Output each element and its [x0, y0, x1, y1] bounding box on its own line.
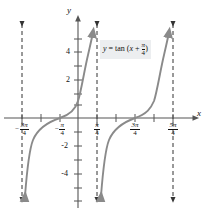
equation-lhs: y	[103, 44, 107, 53]
y-axis	[74, 18, 82, 208]
frac-denominator: 4	[94, 130, 100, 137]
fraction: 3π4	[130, 122, 139, 138]
x-tick-label-neg-pi-over-4: −π4	[48, 122, 72, 138]
x-axis	[4, 114, 196, 122]
x-tick-label-5pi-over-4: 5π4	[163, 122, 183, 138]
equation-close-paren: )	[145, 44, 148, 53]
fraction: 3π4	[20, 122, 29, 138]
x-tick-label-pi-over-4: π4	[89, 122, 105, 138]
frac-denominator: 4	[168, 130, 177, 137]
x-tick-label-3pi-over-4: 3π4	[125, 122, 145, 138]
frac-denominator: 4	[20, 130, 29, 137]
equation-plus: +	[135, 44, 140, 53]
y-tick-label-neg-4: -4	[54, 169, 68, 178]
equation-equals: =	[109, 44, 114, 53]
y-tick-label-4: 4	[56, 47, 70, 56]
y-axis-label: y	[67, 5, 71, 15]
frac-denominator: 4	[59, 130, 65, 137]
tangent-function-graph: y x y = tan (x + π4) −3π4 −π4 π4 3π4 5π4…	[0, 0, 209, 216]
x-axis-label: x	[197, 108, 201, 118]
y-tick-label-2: 2	[56, 75, 70, 84]
fraction: π4	[94, 122, 100, 138]
equation-argument: x	[130, 44, 134, 53]
plot-canvas	[0, 0, 209, 216]
y-tick-label-neg-2: -2	[54, 141, 68, 150]
equation-label: y = tan (x + π4)	[100, 40, 151, 59]
x-tick-label-neg-3pi-over-4: −3π4	[8, 122, 36, 138]
equation-function: tan	[115, 44, 125, 53]
fraction: 5π4	[168, 122, 177, 138]
frac-denominator: 4	[130, 130, 139, 137]
fraction: π4	[59, 122, 65, 138]
